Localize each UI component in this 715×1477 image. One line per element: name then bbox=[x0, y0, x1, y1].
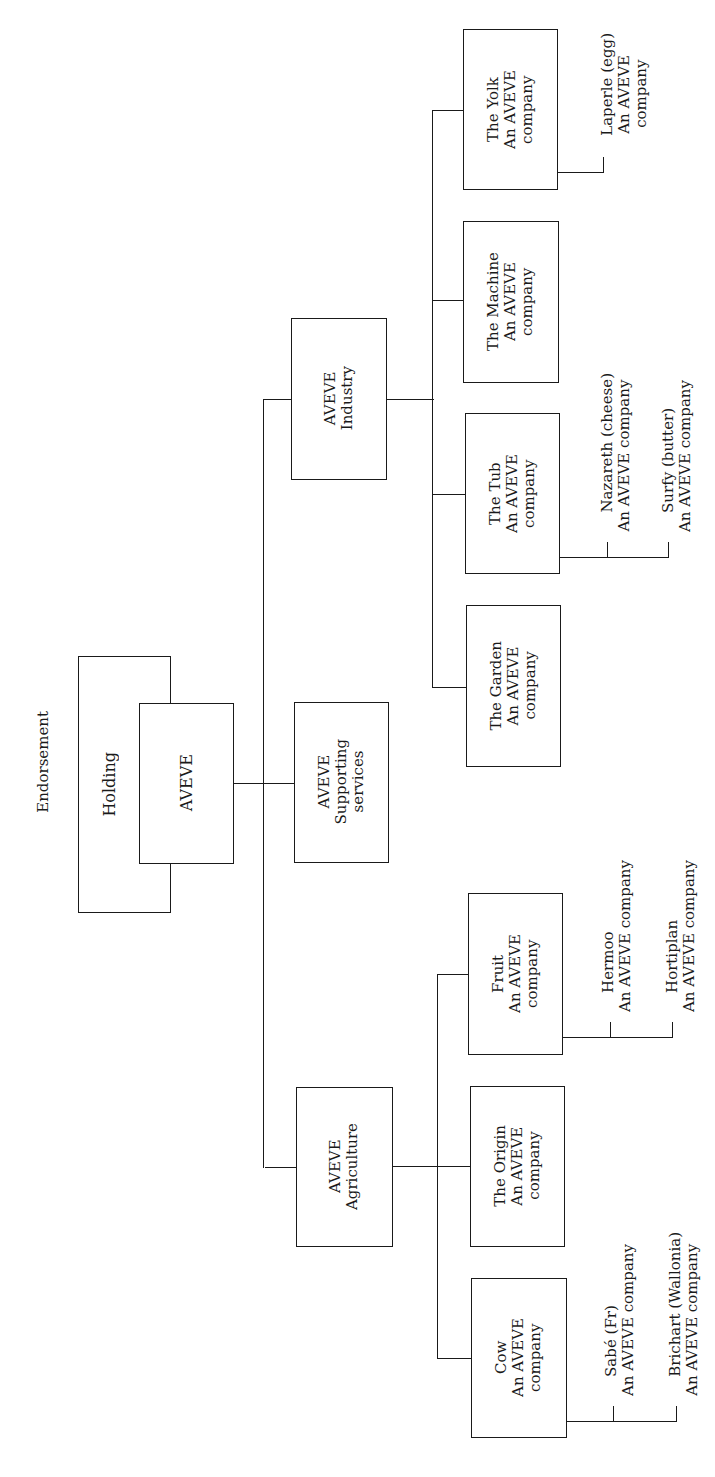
company-box-garden: The Garden An AVEVE company bbox=[466, 605, 561, 767]
subsidiary-name-nazareth: Nazareth (cheese) bbox=[598, 373, 616, 513]
root-box-aveve: AVEVE bbox=[139, 703, 234, 864]
subsidiary-surfy: Surfy (butter)An AVEVE company bbox=[643, 300, 683, 532]
company-label-tub: The Tub An AVEVE company bbox=[487, 454, 538, 533]
subsidiary-endorsement-hermoo: An AVEVE company bbox=[616, 860, 634, 1012]
company-label-origin: The Origin An AVEVE company bbox=[492, 1125, 543, 1207]
subsidiary-name-surfy: Surfy (butter) bbox=[659, 408, 677, 513]
subsidiary-laperle: Laperle (egg)An AVEVE company bbox=[582, 20, 662, 155]
division-box-agriculture: AVEVE Agriculture bbox=[296, 1087, 393, 1247]
subsidiary-endorsement-brichart: An AVEVE company bbox=[683, 1244, 701, 1396]
subsidiary-name-laperle: Laperle (egg) bbox=[598, 33, 616, 136]
company-box-tub: The Tub An AVEVE company bbox=[465, 413, 560, 574]
subsidiary-name-brichart: Brichart (Wallonia) bbox=[666, 1232, 684, 1377]
division-label-supporting-services: AVEVE Supporting services bbox=[316, 739, 367, 824]
fruit-bracket-line bbox=[562, 1037, 673, 1038]
company-label-garden: The Garden An AVEVE company bbox=[488, 641, 539, 731]
root-connector bbox=[233, 783, 295, 784]
company-box-cow: Cow An AVEVE company bbox=[471, 1278, 567, 1438]
tub-connector bbox=[432, 494, 466, 495]
subsidiary-endorsement-surfy: An AVEVE company bbox=[676, 380, 694, 532]
main-trunk-line bbox=[263, 399, 264, 1168]
division-box-supporting-services: AVEVE Supporting services bbox=[294, 702, 389, 863]
nazareth-bracket-tick bbox=[607, 542, 608, 558]
subsidiary-name-sabe: Sabé (Fr) bbox=[602, 1305, 620, 1377]
sabe-bracket-tick bbox=[613, 1406, 614, 1422]
yolk-connector bbox=[432, 110, 464, 111]
company-box-origin: The Origin An AVEVE company bbox=[470, 1086, 565, 1247]
subsidiary-endorsement-hortiplan: An AVEVE company bbox=[680, 860, 698, 1012]
subsidiary-endorsement-sabe: An AVEVE company bbox=[619, 1244, 637, 1396]
subsidiary-name-hortiplan: Hortiplan bbox=[663, 920, 681, 993]
company-label-yolk: The Yolk An AVEVE company bbox=[485, 70, 536, 149]
division-label-industry: AVEVE Industry bbox=[322, 366, 356, 430]
division-label-agriculture: AVEVE Agriculture bbox=[327, 1123, 361, 1210]
cow-connector bbox=[437, 1358, 472, 1359]
subsidiary-nazareth: Nazareth (cheese)An AVEVE company bbox=[582, 300, 622, 532]
diagram-title-wrap: Endorsement bbox=[30, 700, 56, 824]
company-label-machine: The Machine An AVEVE company bbox=[485, 252, 536, 351]
diagram-title: Endorsement bbox=[35, 711, 52, 813]
holding-label: Holding bbox=[101, 752, 118, 817]
laperle-bracket-tick bbox=[603, 157, 604, 173]
agriculture-branch-line bbox=[392, 1166, 470, 1167]
laperle-bracket-line bbox=[557, 172, 604, 173]
cow-bracket-line bbox=[566, 1421, 677, 1422]
agriculture-connector bbox=[265, 1167, 297, 1168]
company-label-cow: Cow An AVEVE company bbox=[493, 1318, 544, 1397]
company-box-fruit: Fruit An AVEVE company bbox=[468, 893, 563, 1055]
subsidiary-endorsement-nazareth: An AVEVE company bbox=[615, 380, 633, 532]
industry-branch-line bbox=[386, 399, 434, 400]
subsidiary-hermoo: HermooAn AVEVE company bbox=[583, 790, 623, 1012]
subsidiary-brichart: Brichart (Wallonia)An AVEVE company bbox=[650, 1180, 690, 1396]
machine-connector bbox=[432, 300, 464, 301]
brichart-bracket-tick bbox=[676, 1406, 677, 1422]
company-box-machine: The Machine An AVEVE company bbox=[463, 221, 559, 383]
fruit-connector bbox=[437, 974, 469, 975]
garden-connector bbox=[432, 687, 467, 688]
root-label: AVEVE bbox=[178, 754, 195, 811]
company-label-fruit: Fruit An AVEVE company bbox=[490, 934, 541, 1013]
subsidiary-hortiplan: HortiplanAn AVEVE company bbox=[647, 790, 687, 1012]
company-box-yolk: The Yolk An AVEVE company bbox=[463, 29, 558, 190]
tub-bracket-line bbox=[559, 557, 669, 558]
hortiplan-bracket-tick bbox=[672, 1022, 673, 1038]
agriculture-vertical-line bbox=[437, 974, 438, 1359]
hermoo-bracket-tick bbox=[610, 1022, 611, 1038]
division-box-industry: AVEVE Industry bbox=[291, 318, 387, 480]
surfy-bracket-tick bbox=[668, 542, 669, 558]
industry-connector bbox=[263, 399, 292, 400]
subsidiary-sabe: Sabé (Fr)An AVEVE company bbox=[586, 1180, 626, 1396]
subsidiary-name-hermoo: Hermoo bbox=[599, 932, 617, 993]
industry-vertical-line bbox=[432, 110, 433, 688]
subsidiary-endorsement-laperle: An AVEVE company bbox=[615, 55, 650, 134]
